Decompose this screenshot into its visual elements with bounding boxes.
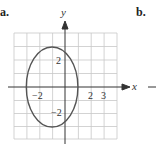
figure-a: a. b. x y − bbox=[0, 0, 156, 144]
x-axis-arrow-icon bbox=[122, 84, 130, 90]
x-tick-3: 3 bbox=[101, 91, 106, 101]
x-axis-label: x bbox=[132, 80, 137, 92]
coordinate-plane bbox=[0, 0, 156, 144]
y-axis-arrow-icon bbox=[62, 21, 68, 29]
x-tick-neg2: −2 bbox=[32, 91, 43, 101]
y-tick-neg2: −2 bbox=[51, 108, 62, 118]
y-tick-2: 2 bbox=[56, 56, 61, 66]
y-axis-label: y bbox=[61, 6, 66, 18]
x-tick-2: 2 bbox=[88, 91, 93, 101]
